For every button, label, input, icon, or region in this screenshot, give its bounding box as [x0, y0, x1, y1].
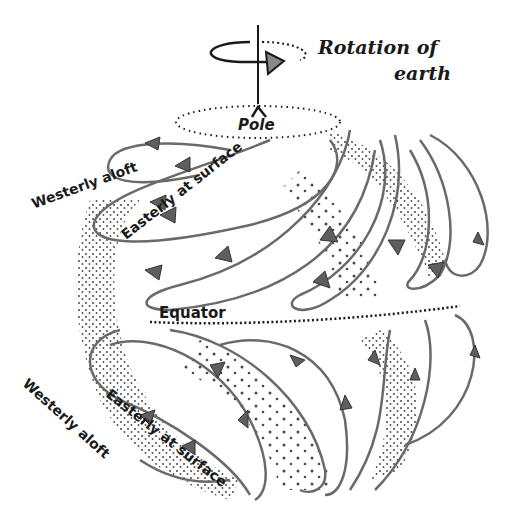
rotation-of-earth-label-line1: Rotation of: [318, 36, 438, 58]
equator-label: Equator: [159, 304, 226, 322]
rotation-of-earth-label-line2: earth: [394, 62, 451, 84]
pole-label: Pole: [238, 116, 275, 134]
circulation-diagram: Rotation of earth Pole Equator Westerly …: [0, 0, 508, 513]
